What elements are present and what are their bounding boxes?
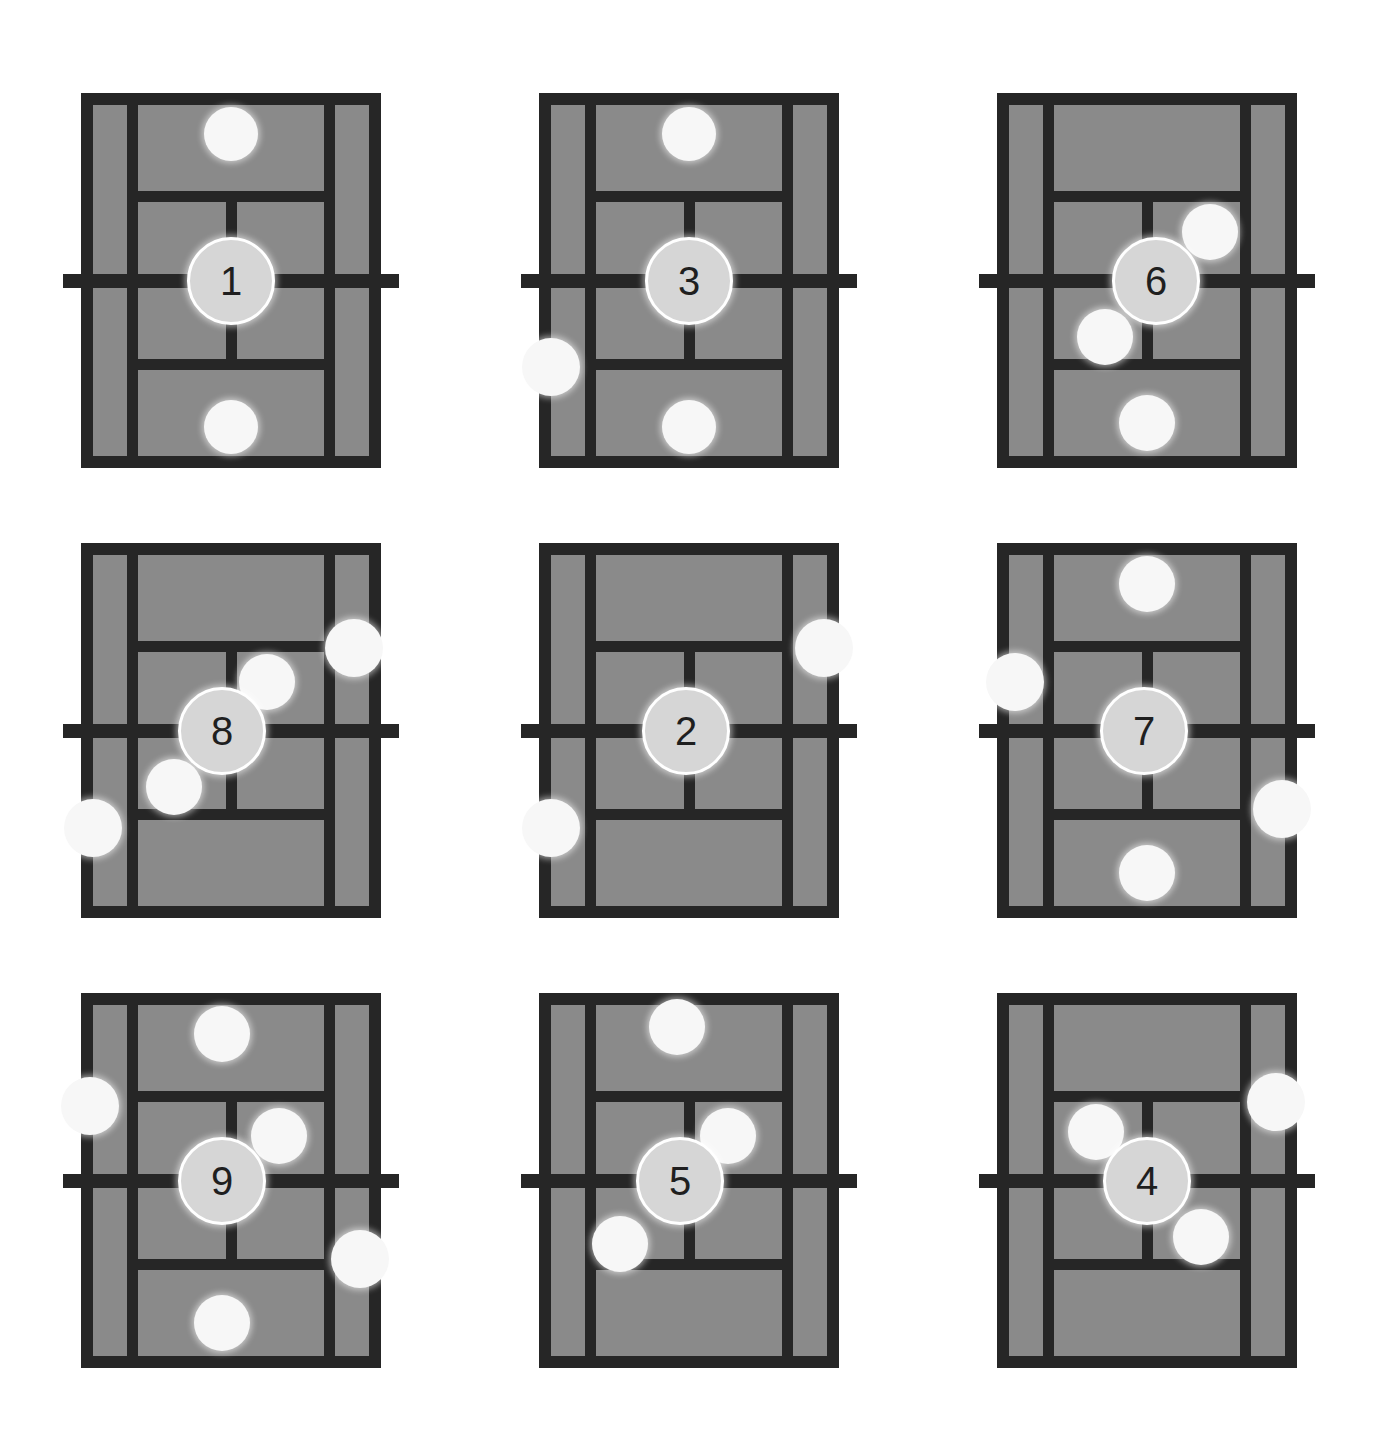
court-service-line-bottom bbox=[138, 1259, 324, 1270]
numbered-marker[interactable]: 5 bbox=[636, 1137, 724, 1225]
numbered-marker[interactable]: 2 bbox=[642, 687, 730, 775]
marker-number-label: 8 bbox=[211, 711, 233, 751]
marker-number-label: 9 bbox=[211, 1161, 233, 1201]
plain-marker[interactable] bbox=[1119, 845, 1175, 901]
marker-number-label: 5 bbox=[669, 1161, 691, 1201]
panel-grid: 136827954 bbox=[0, 0, 1374, 1443]
court-diagram: 9 bbox=[81, 993, 381, 1368]
court-service-line-top bbox=[138, 191, 324, 202]
court-service-line-bottom bbox=[596, 809, 782, 820]
plain-marker[interactable] bbox=[662, 107, 716, 161]
plain-marker[interactable] bbox=[1253, 780, 1311, 838]
marker-number-label: 4 bbox=[1136, 1161, 1158, 1201]
court-service-line-bottom bbox=[1054, 359, 1240, 370]
court-service-line-top bbox=[596, 641, 782, 652]
court-panel-9[interactable]: 9 bbox=[59, 985, 399, 1385]
plain-marker[interactable] bbox=[1182, 204, 1238, 260]
numbered-marker[interactable]: 4 bbox=[1103, 1137, 1191, 1225]
plain-marker[interactable] bbox=[194, 1295, 250, 1351]
marker-number-label: 7 bbox=[1133, 711, 1155, 751]
plain-marker[interactable] bbox=[662, 400, 716, 454]
court-diagram: 7 bbox=[997, 543, 1297, 918]
plain-marker[interactable] bbox=[204, 107, 258, 161]
plain-marker[interactable] bbox=[522, 338, 580, 396]
court-panel-2[interactable]: 2 bbox=[517, 535, 857, 935]
plain-marker[interactable] bbox=[61, 1077, 119, 1135]
court-diagram: 6 bbox=[997, 93, 1297, 468]
plain-marker[interactable] bbox=[194, 1006, 250, 1062]
court-service-line-bottom bbox=[596, 359, 782, 370]
numbered-marker[interactable]: 6 bbox=[1112, 237, 1200, 325]
court-panel-3[interactable]: 3 bbox=[517, 85, 857, 485]
court-panel-8[interactable]: 8 bbox=[59, 535, 399, 935]
court-diagram: 5 bbox=[539, 993, 839, 1368]
marker-number-label: 1 bbox=[220, 261, 242, 301]
plain-marker[interactable] bbox=[592, 1216, 648, 1272]
plain-marker[interactable] bbox=[795, 619, 853, 677]
plain-marker[interactable] bbox=[1119, 395, 1175, 451]
court-diagram: 1 bbox=[81, 93, 381, 468]
numbered-marker[interactable]: 8 bbox=[178, 687, 266, 775]
plain-marker[interactable] bbox=[64, 799, 122, 857]
court-service-line-bottom bbox=[1054, 809, 1240, 820]
court-service-line-top bbox=[1054, 1091, 1240, 1102]
court-diagram: 2 bbox=[539, 543, 839, 918]
plain-marker[interactable] bbox=[331, 1230, 389, 1288]
plain-marker[interactable] bbox=[251, 1108, 307, 1164]
numbered-marker[interactable]: 9 bbox=[178, 1137, 266, 1225]
court-diagram: 4 bbox=[997, 993, 1297, 1368]
plain-marker[interactable] bbox=[1247, 1073, 1305, 1131]
court-panel-7[interactable]: 7 bbox=[975, 535, 1315, 935]
numbered-marker[interactable]: 3 bbox=[645, 237, 733, 325]
marker-number-label: 3 bbox=[678, 261, 700, 301]
court-service-line-top bbox=[1054, 641, 1240, 652]
court-diagram: 3 bbox=[539, 93, 839, 468]
plain-marker[interactable] bbox=[649, 999, 705, 1055]
plain-marker[interactable] bbox=[325, 619, 383, 677]
plain-marker[interactable] bbox=[522, 799, 580, 857]
numbered-marker[interactable]: 7 bbox=[1100, 687, 1188, 775]
court-panel-4[interactable]: 4 bbox=[975, 985, 1315, 1385]
court-panel-1[interactable]: 1 bbox=[59, 85, 399, 485]
marker-number-label: 6 bbox=[1145, 261, 1167, 301]
plain-marker[interactable] bbox=[146, 759, 202, 815]
court-panel-6[interactable]: 6 bbox=[975, 85, 1315, 485]
court-service-line-bottom bbox=[138, 359, 324, 370]
plain-marker[interactable] bbox=[1077, 309, 1133, 365]
plain-marker[interactable] bbox=[204, 400, 258, 454]
court-service-line-top bbox=[1054, 191, 1240, 202]
numbered-marker[interactable]: 1 bbox=[187, 237, 275, 325]
plain-marker[interactable] bbox=[1119, 556, 1175, 612]
marker-number-label: 2 bbox=[675, 711, 697, 751]
court-service-line-top bbox=[138, 641, 324, 652]
court-panel-5[interactable]: 5 bbox=[517, 985, 857, 1385]
plain-marker[interactable] bbox=[986, 653, 1044, 711]
court-diagram: 8 bbox=[81, 543, 381, 918]
court-service-line-top bbox=[596, 1091, 782, 1102]
court-service-line-top bbox=[138, 1091, 324, 1102]
court-service-line-top bbox=[596, 191, 782, 202]
plain-marker[interactable] bbox=[1173, 1209, 1229, 1265]
